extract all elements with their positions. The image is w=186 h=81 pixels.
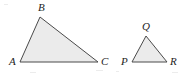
triangle-pqr-shape xyxy=(132,36,167,62)
vertex-label-q: Q xyxy=(142,21,150,32)
vertex-label-p: P xyxy=(121,56,128,67)
vertex-label-r: R xyxy=(170,56,177,67)
triangles-canvas xyxy=(0,0,186,81)
geometry-figure: A B C P Q R xyxy=(0,0,186,81)
triangle-abc-shape xyxy=(20,17,98,62)
vertex-label-a: A xyxy=(9,56,16,67)
vertex-label-b: B xyxy=(38,2,45,13)
vertex-label-c: C xyxy=(101,56,108,67)
